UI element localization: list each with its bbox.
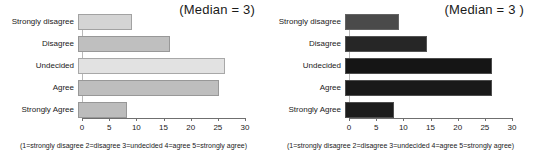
bar-row: Strongly Agree [267,102,534,118]
x-tick [164,118,165,121]
category-label: Agree [0,83,78,93]
bar-track [345,102,530,118]
bar-right-3 [345,80,492,96]
x-tick-label: 5 [374,123,378,132]
bar-track [78,58,263,74]
category-label: Undecided [267,61,345,71]
bar-track [78,80,263,96]
category-label: Agree [267,83,345,93]
bar-left-3 [78,80,219,96]
bar-left-0 [78,14,132,30]
bar-left-1 [78,36,170,52]
x-tick [82,118,83,121]
bar-right-4 [345,102,394,118]
bar-track [78,102,263,118]
x-tick-label: 30 [241,123,250,132]
x-axis-right: 051015202530 [349,118,512,119]
bar-right-0 [345,14,399,30]
x-tick [376,118,377,121]
bar-right-2 [345,58,492,74]
x-axis-left: 051015202530 [82,118,245,119]
x-tick-label: 5 [107,123,111,132]
plot-area-right: Strongly disagreeDisagreeUndecidedAgreeS… [267,14,534,126]
x-tick [109,118,110,121]
x-tick-label: 25 [213,123,222,132]
category-label: Strongly Agree [0,105,78,115]
category-label: Strongly disagree [267,17,345,27]
x-tick-label: 20 [453,123,462,132]
x-tick [349,118,350,121]
bar-row: Agree [267,80,534,96]
x-tick-label: 15 [426,123,435,132]
scale-footnote-right: (1=strongly disagree 2=disagree 3=undeci… [267,141,534,150]
bar-track [345,58,530,74]
x-tick [218,118,219,121]
bar-row: Undecided [0,58,267,74]
plot-area-left: Strongly disagreeDisagreeUndecidedAgreeS… [0,14,267,126]
bar-track [78,36,263,52]
x-tick-label: 25 [480,123,489,132]
bar-row: Strongly disagree [267,14,534,30]
category-label: Undecided [0,61,78,71]
bar-row: Disagree [0,36,267,52]
x-tick-label: 0 [347,123,351,132]
x-tick [136,118,137,121]
bar-row: Undecided [267,58,534,74]
bar-track [345,80,530,96]
bar-rows-right: Strongly disagreeDisagreeUndecidedAgreeS… [267,14,534,118]
right-chart-panel: (Median = 3 ) Strongly disagreeDisagreeU… [267,0,534,156]
x-tick-label: 0 [80,123,84,132]
category-label: Strongly Agree [267,105,345,115]
x-tick [245,118,246,121]
x-tick [512,118,513,121]
bar-row: Strongly disagree [0,14,267,30]
x-tick [485,118,486,121]
bar-left-4 [78,102,127,118]
bar-track [345,14,530,30]
x-tick [403,118,404,121]
x-tick [191,118,192,121]
x-tick-label: 30 [508,123,517,132]
bar-row: Disagree [267,36,534,52]
x-tick-label: 10 [132,123,141,132]
x-tick-label: 15 [159,123,168,132]
left-chart-panel: (Median = 3) Strongly disagreeDisagreeUn… [0,0,267,156]
bar-right-1 [345,36,427,52]
scale-footnote-left: (1=strongly disagree 2=disagree 3=undeci… [0,141,267,150]
category-label: Strongly disagree [0,17,78,27]
bar-row: Strongly Agree [0,102,267,118]
bar-row: Agree [0,80,267,96]
bar-rows-left: Strongly disagreeDisagreeUndecidedAgreeS… [0,14,267,118]
category-label: Disagree [0,39,78,49]
x-tick [431,118,432,121]
bar-track [345,36,530,52]
figure-canvas: (Median = 3) Strongly disagreeDisagreeUn… [0,0,534,156]
category-label: Disagree [267,39,345,49]
x-tick [458,118,459,121]
x-tick-label: 20 [186,123,195,132]
bar-left-2 [78,58,225,74]
x-tick-label: 10 [399,123,408,132]
bar-track [78,14,263,30]
